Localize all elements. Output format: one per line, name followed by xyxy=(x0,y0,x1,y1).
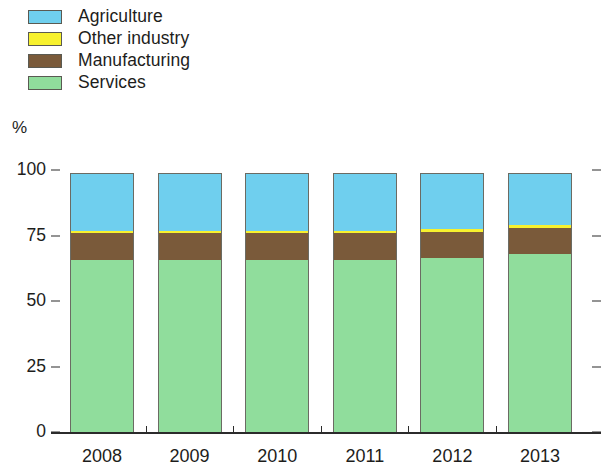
bar-segment-agriculture[interactable] xyxy=(158,173,222,231)
x-axis-tick-label-2008: 2008 xyxy=(82,446,122,466)
bar-segment-manufacturing[interactable] xyxy=(70,233,134,261)
y-axis-tick-label: 50 xyxy=(0,292,46,310)
bar-segment-other-industry[interactable] xyxy=(333,231,397,233)
bar-2008[interactable] xyxy=(70,170,134,432)
bar-segment-services[interactable] xyxy=(333,260,397,432)
y-axis-tick-mark-right xyxy=(592,301,601,302)
bar-segment-manufacturing[interactable] xyxy=(245,233,309,261)
bar-2012[interactable] xyxy=(420,170,484,432)
x-axis-tick-label-2013: 2013 xyxy=(520,446,560,466)
chart-plot-area: 0255075100 200820092010201120122013 xyxy=(0,0,606,466)
bar-segment-other-industry[interactable] xyxy=(70,231,134,233)
y-axis-tick-label: 75 xyxy=(0,227,46,245)
y-axis-tick-label: 25 xyxy=(0,358,46,376)
bar-segment-manufacturing[interactable] xyxy=(333,233,397,261)
x-axis-tick-mark xyxy=(146,426,147,433)
bar-segment-agriculture[interactable] xyxy=(420,173,484,229)
y-axis-tick-mark xyxy=(51,235,60,236)
y-axis-tick-mark xyxy=(51,366,60,367)
x-axis-tick-mark xyxy=(233,426,234,433)
bar-segment-manufacturing[interactable] xyxy=(158,233,222,261)
x-axis-line xyxy=(51,432,601,434)
x-axis-tick-label-2010: 2010 xyxy=(257,446,297,466)
x-axis-tick-label-2011: 2011 xyxy=(345,446,384,466)
bar-segment-agriculture[interactable] xyxy=(333,173,397,231)
bar-segment-services[interactable] xyxy=(158,260,222,432)
x-axis-tick-label-2009: 2009 xyxy=(170,446,210,466)
bar-segment-services[interactable] xyxy=(245,260,309,432)
bar-2009[interactable] xyxy=(158,170,222,432)
bar-segment-services[interactable] xyxy=(508,254,572,432)
x-axis-tick-mark xyxy=(408,426,409,433)
y-axis-tick-mark xyxy=(51,301,60,302)
bar-segment-manufacturing[interactable] xyxy=(508,228,572,254)
bar-segment-other-industry[interactable] xyxy=(158,231,222,233)
y-axis-tick-label: 100 xyxy=(0,161,46,179)
y-axis-tick-mark-right xyxy=(592,170,601,171)
y-axis-tick-mark-right xyxy=(592,235,601,236)
bar-segment-agriculture[interactable] xyxy=(70,173,134,231)
bar-2013[interactable] xyxy=(508,170,572,432)
bar-2011[interactable] xyxy=(333,170,397,432)
bar-segment-manufacturing[interactable] xyxy=(420,232,484,258)
bar-segment-other-industry[interactable] xyxy=(420,229,484,232)
y-axis-tick-label: 0 xyxy=(0,423,46,441)
bar-segment-services[interactable] xyxy=(420,258,484,432)
bar-segment-agriculture[interactable] xyxy=(245,173,309,231)
x-axis-tick-label-2012: 2012 xyxy=(432,446,472,466)
bar-2010[interactable] xyxy=(245,170,309,432)
x-axis-tick-mark xyxy=(321,426,322,433)
bar-segment-other-industry[interactable] xyxy=(508,225,572,228)
x-axis-tick-mark xyxy=(496,426,497,433)
y-axis-tick-mark-right xyxy=(592,366,601,367)
bar-segment-services[interactable] xyxy=(70,260,134,432)
y-axis-tick-mark xyxy=(51,170,60,171)
bar-segment-agriculture[interactable] xyxy=(508,173,572,225)
bar-segment-other-industry[interactable] xyxy=(245,231,309,233)
